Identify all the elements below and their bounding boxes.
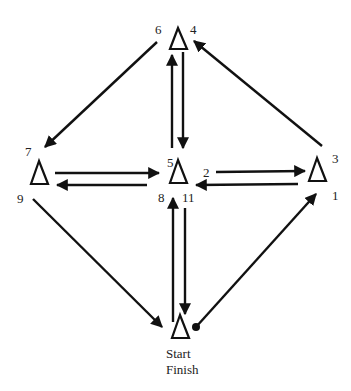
edge-right-to-center	[196, 184, 298, 185]
cone-top	[170, 28, 187, 49]
edge-right-to-top	[194, 41, 322, 146]
label-11: 11	[182, 190, 195, 205]
label-6: 6	[155, 22, 162, 37]
label-8: 8	[158, 190, 165, 205]
label-2: 2	[203, 165, 210, 180]
edge-center-to-right	[216, 171, 305, 172]
edge-left-to-bottom	[33, 199, 162, 327]
label-finish: Finish	[166, 362, 199, 377]
label-4: 4	[190, 22, 197, 37]
cone-right	[309, 158, 326, 181]
cone-left	[31, 161, 48, 184]
edge-start-to-right	[196, 194, 316, 327]
label-1: 1	[332, 188, 339, 203]
label-3: 3	[332, 151, 339, 166]
label-5: 5	[167, 155, 174, 170]
label-start: Start	[166, 346, 191, 361]
label-7: 7	[25, 144, 32, 159]
route-diagram: 6 4 7 9 5 2 8 11 3 1 Start Finish	[0, 0, 351, 391]
label-9: 9	[17, 191, 24, 206]
edge-top-to-left	[45, 42, 157, 147]
cone-bottom	[172, 315, 189, 338]
